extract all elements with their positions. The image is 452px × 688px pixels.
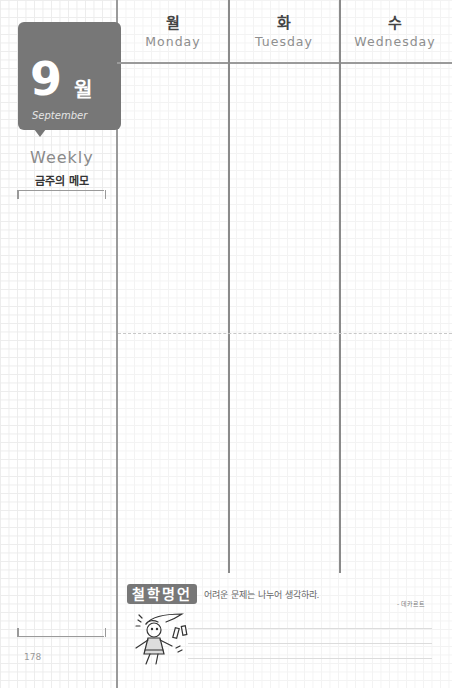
day-header-monday: 월 Monday [118,14,228,49]
day-english: Monday [118,34,228,49]
memo-bracket-top [19,190,104,199]
month-badge: 9 월 September [18,22,121,130]
month-number: 9 [30,56,62,102]
day-korean: 화 [229,14,339,32]
day-header-wednesday: 수 Wednesday [340,14,450,49]
month-english: September [32,110,87,121]
day-english: Wednesday [340,34,450,49]
month-korean: 월 [74,74,92,103]
day-korean: 수 [340,14,450,32]
memo-label: 금주의 메모 [35,172,89,188]
quote-badge: 철학명언 [127,584,197,604]
weekly-label: Weekly [30,148,94,167]
girl-illustration-icon [132,610,196,670]
writing-line[interactable] [188,628,432,629]
day-header-tuesday: 화 Tuesday [229,14,339,49]
day-notes-monday[interactable] [118,64,228,573]
memo-bracket-bottom [19,636,104,637]
quote-author: - 데카르트 [397,599,425,608]
day-korean: 월 [118,14,228,32]
writing-line[interactable] [188,643,432,644]
page-number: 178 [24,652,41,662]
day-notes-wednesday[interactable] [341,64,452,573]
writing-line[interactable] [188,658,432,659]
day-notes-tuesday[interactable] [230,64,339,573]
day-english: Tuesday [229,34,339,49]
quote-text: 어려운 문제는 나누어 생각하라. [204,588,319,601]
